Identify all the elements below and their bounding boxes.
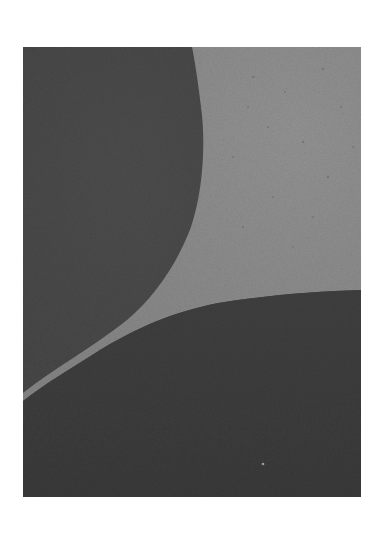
photograph-canvas [23,47,361,497]
page: Abstract grayscale photograph: two dark … [0,0,376,534]
highlight-speck [262,463,265,466]
photograph [23,47,361,497]
